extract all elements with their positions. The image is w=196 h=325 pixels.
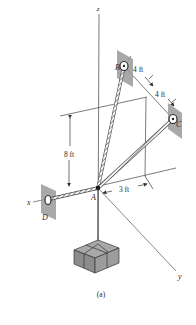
y-axis-label: y	[177, 272, 182, 281]
dimension-3ft-label: 3 ft	[119, 185, 130, 194]
point-label-a: A	[90, 193, 96, 202]
point-label-c: C	[176, 120, 182, 129]
dimension-4ft-second-label: 4 ft	[155, 90, 166, 99]
point-label-d: D	[41, 213, 48, 222]
x-axis-label: x	[26, 198, 31, 207]
anchor-ring-b	[120, 62, 128, 71]
crate	[74, 240, 119, 273]
point-label-b: B	[115, 63, 120, 72]
anchor-ring-d	[45, 196, 51, 205]
figure-caption: (a)	[97, 290, 106, 299]
dimension-8ft-label: 8 ft	[64, 150, 75, 159]
z-axis-label: z	[96, 5, 100, 13]
dimension-4ft-first-label: 4 ft	[133, 65, 144, 74]
dimension-4ft-bc	[128, 56, 176, 106]
force-diagram: z x y 8 ft 4 ft 4 ft 3 ft	[0, 0, 196, 325]
